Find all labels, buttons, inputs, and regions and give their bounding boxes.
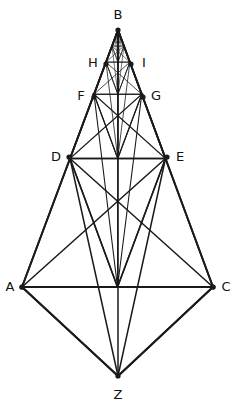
vertex-label-A: A [6,279,15,294]
edge-right-lower [118,287,213,376]
vertex-label-E: E [176,149,184,164]
edge-base-to-left-mid [94,94,118,287]
vertex-dot-rung-left [114,37,116,39]
vertex-dot-rung-left [116,33,118,35]
vertex-dot-E [164,154,169,159]
vertex-dot-G [140,94,145,99]
vertex-dot-H [103,61,108,66]
vertex-dot-rung-right [123,45,125,47]
vertex-dot-I [128,61,133,66]
edge-layer [22,30,213,376]
vertex-dot-F [91,94,96,99]
edge-left-lower [22,287,118,376]
vertex-dot-rung-right [118,33,120,35]
vertex-label-D: D [51,149,61,164]
edge-base-to-right-mid [118,62,130,158]
vertex-label-I: I [142,55,146,70]
vertex-label-G: G [151,88,161,103]
vertex-dot-B [115,27,120,32]
edge-base-to-right-mid [118,94,142,287]
vertex-dot-C [210,284,215,289]
vertex-dot-A [19,284,24,289]
vertex-dot-Z [115,373,120,378]
geometric-figure: ACZBDEFGHI [0,0,235,408]
vertex-label-F: F [77,88,84,103]
vertex-dot-rung-left [111,45,113,47]
vertex-label-C: C [221,279,230,294]
vertex-dot-rung-right [120,37,122,39]
vertex-label-B: B [114,7,123,22]
vertex-label-Z: Z [114,387,123,402]
vertex-dot-D [66,154,71,159]
vertex-label-H: H [88,55,98,70]
recursive-kite-diagram: ACZBDEFGHI [0,0,235,408]
